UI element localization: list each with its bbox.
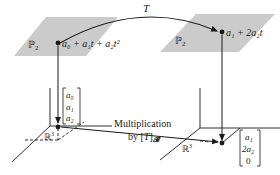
svg-text:a₀: a₀ (66, 90, 74, 100)
output-vector-point (220, 141, 225, 146)
transformation-label: T (143, 2, 150, 14)
matrix-label: by [T]𝓑 (128, 131, 161, 144)
svg-text:a₂: a₂ (66, 113, 74, 123)
right-r3-axes (160, 88, 280, 160)
domain-plane (14, 17, 118, 56)
output-vector: a₁ 2a₂ 0 (240, 130, 260, 166)
input-point (56, 41, 61, 46)
input-vector-point (56, 125, 61, 130)
svg-text:0: 0 (246, 156, 251, 166)
output-point (220, 30, 225, 35)
svg-text:a₁: a₁ (245, 132, 253, 142)
right-r3-label: ℝ3 (182, 143, 192, 154)
input-vector: a₀ a₁ a₂ (63, 88, 80, 124)
diagram-canvas: T ℙ2 a₀ + a₁t + a₂t² ℙ2 a₁ + 2a₂t ℝ3 a₀ … (0, 0, 280, 175)
output-polynomial: a₁ + 2a₂t (226, 27, 263, 38)
svg-text:a₁: a₁ (66, 102, 74, 112)
multiplication-label: Multiplication (114, 118, 171, 129)
svg-text:2a₂: 2a₂ (242, 144, 254, 154)
input-polynomial: a₀ + a₁t + a₂t² (62, 38, 120, 49)
